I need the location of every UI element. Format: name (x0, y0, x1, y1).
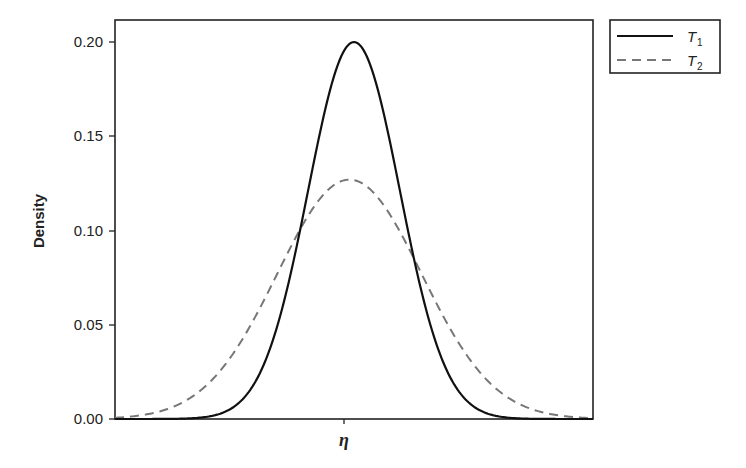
y-tick-label: 0.15 (74, 127, 103, 144)
y-axis-title: Density (30, 193, 47, 248)
y-tick-label: 0.05 (74, 316, 103, 333)
legend-subscript: 2 (697, 61, 703, 72)
y-axis: 0.20 0.15 0.10 0.05 0.00 (74, 33, 115, 427)
legend-box (610, 20, 720, 73)
y-tick-label: 0.20 (74, 33, 103, 50)
curve-t1 (115, 42, 593, 419)
plot-frame (115, 20, 593, 419)
legend-subscript: 1 (697, 37, 703, 48)
density-chart: 0.20 0.15 0.10 0.05 0.00 Density η T 1 T… (0, 0, 746, 468)
x-axis: η (339, 419, 349, 450)
y-tick-label: 0.00 (74, 410, 103, 427)
curve-t2 (115, 180, 593, 419)
x-axis-title: η (339, 430, 349, 450)
legend: T 1 T 2 (610, 20, 720, 73)
y-tick-label: 0.10 (74, 222, 103, 239)
